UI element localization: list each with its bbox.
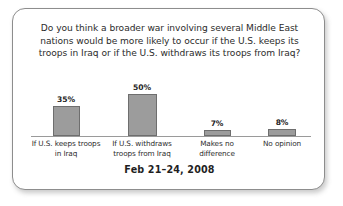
bar-value-label-1: 50%: [103, 83, 181, 92]
category-label-0-line-1: If U.S. keeps troops: [29, 139, 103, 149]
category-label-row: If U.S. keeps troops in Iraq If U.S. wit…: [29, 139, 313, 163]
bar-0: [53, 106, 80, 136]
category-label-3-line-1: No opinion: [251, 139, 313, 149]
category-label-2: Makes no difference: [184, 139, 250, 158]
bar-column-3: 8%: [251, 118, 313, 136]
bar-chart: 35% 50% 7% 8% If: [29, 79, 313, 147]
bar-3: [268, 129, 296, 136]
poll-result-card: Do you think a broader war involving sev…: [12, 8, 325, 190]
category-label-0: If U.S. keeps troops in Iraq: [29, 139, 103, 158]
bar-column-1: 50%: [103, 83, 181, 136]
bar-column-2: 7%: [184, 119, 250, 136]
category-label-1-line-2: troops from Iraq: [103, 149, 181, 159]
poll-question: Do you think a broader war involving sev…: [30, 22, 309, 60]
screenshot-stage: Do you think a broader war involving sev…: [0, 0, 343, 206]
poll-question-line-1: Do you think a broader war involving sev…: [30, 22, 309, 35]
category-label-2-line-2: difference: [184, 149, 250, 159]
category-label-1-line-1: If U.S. withdraws: [103, 139, 181, 149]
poll-question-line-2: nations would be more likely to occur if…: [30, 35, 309, 48]
bar-value-label-2: 7%: [184, 119, 250, 128]
chart-baseline-axis: [31, 136, 311, 137]
bar-1: [128, 94, 157, 136]
category-label-3: No opinion: [251, 139, 313, 149]
category-label-0-line-2: in Iraq: [29, 149, 103, 159]
bar-column-0: 35%: [29, 95, 103, 136]
bar-value-label-3: 8%: [251, 118, 313, 127]
bar-value-label-0: 35%: [29, 95, 103, 104]
category-label-1: If U.S. withdraws troops from Iraq: [103, 139, 181, 158]
category-label-2-line-1: Makes no: [184, 139, 250, 149]
poll-date-caption: Feb 21–24, 2008: [13, 164, 326, 175]
bar-chart-plot-area: 35% 50% 7% 8%: [29, 79, 313, 137]
poll-question-line-3: troops in Iraq or if the U.S. withdraws …: [30, 47, 309, 60]
